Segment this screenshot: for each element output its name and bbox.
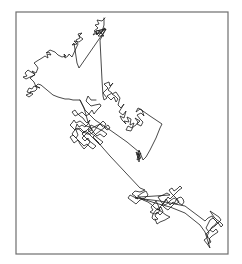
trajectory-plot	[0, 0, 242, 264]
plot-frame	[16, 12, 228, 254]
